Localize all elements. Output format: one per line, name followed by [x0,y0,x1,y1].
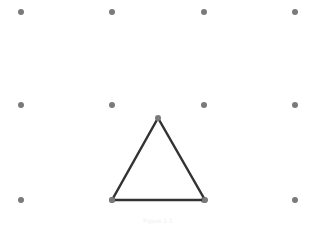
triangle-vertex [155,115,161,121]
triangle-vertex [202,197,208,203]
triangle-vertex [109,197,115,203]
grid-dot [18,102,24,108]
triangle-vertices [109,115,208,203]
grid-dot [18,197,24,203]
triangle [112,118,205,200]
grid-dots [18,9,298,203]
dot-grid-diagram [0,0,316,226]
grid-dot [18,9,24,15]
grid-dot [292,9,298,15]
grid-dot [292,102,298,108]
grid-dot [109,9,115,15]
grid-dot [109,102,115,108]
figure-caption: Figure 1.1 [0,217,316,224]
grid-dot [292,197,298,203]
grid-dot [201,9,207,15]
grid-dot [201,102,207,108]
